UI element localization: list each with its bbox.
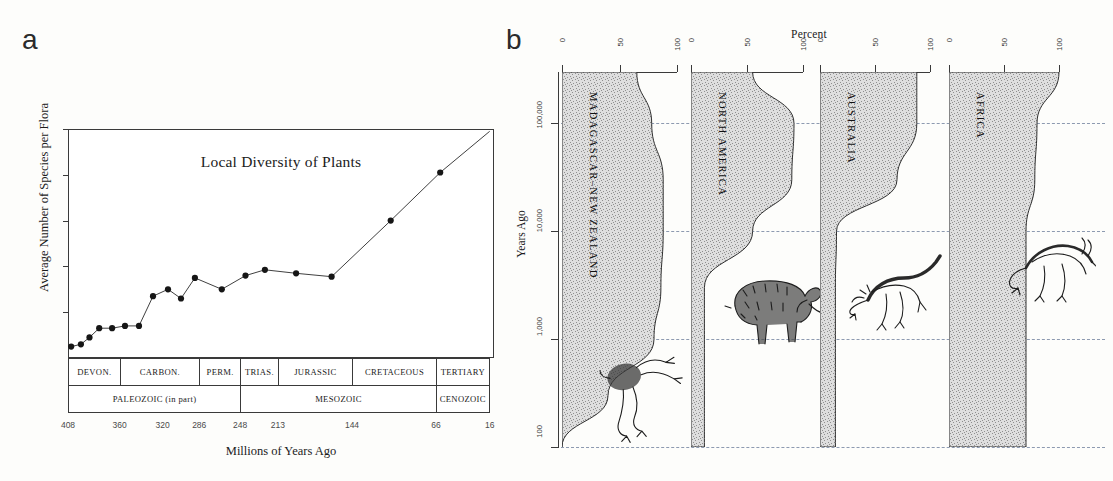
panel-b-x-tick-label: 0 [816, 38, 825, 42]
panel-b-y-tickmark [551, 339, 559, 340]
panel-b-x-tick-label: 50 [616, 38, 625, 46]
panel-b-x-tickmark [875, 65, 876, 72]
panel-b-x-tickmark [1059, 65, 1060, 72]
panel-b-x-tickmark [677, 65, 678, 72]
panel-a-x-axis-label: Millions of Years Ago [68, 444, 494, 459]
panel-a-data-point [178, 295, 184, 301]
panel-b-y-tick-label: 100 [535, 425, 544, 438]
panel-a-period-cell: PERM. [199, 358, 240, 386]
panel-b-x-tick-label: 0 [558, 38, 567, 42]
panel-a-period-cell: JURASSIC [278, 358, 352, 386]
panel-a-data-point [242, 273, 248, 279]
panel-b-x-tick-label: 100 [1055, 38, 1064, 51]
panel-b: b Percent Years Ago 100,00010,0001,00010… [505, 0, 1113, 481]
panel-b-x-tickmark [562, 65, 563, 72]
mammoth-illustration [721, 272, 829, 356]
antelope-illustration [1004, 220, 1096, 312]
panel-a-x-tick-label: 408 [61, 420, 75, 430]
panel-a-series-line [71, 131, 490, 346]
panel-a-period-cell: TERTIARY [436, 358, 490, 386]
panel-a-period-cell: TRIAS. [240, 358, 278, 386]
panel-b-column-label: AFRICA [975, 92, 986, 139]
panel-a-period-cell: CARBON. [120, 358, 200, 386]
panel-a-period-row: DEVON.CARBON.PERM.TRIAS.JURASSICCRETACEO… [68, 358, 494, 386]
panel-b-y-axis-label: Years Ago [515, 174, 527, 294]
panel-b-area-shape [691, 72, 837, 447]
panel-a-data-point [136, 323, 142, 329]
panel-b-column: 050100MADAGASCAR–NEW ZEALAND [562, 72, 711, 447]
panel-b-chart-title: Percent [505, 28, 1113, 40]
panel-b-y-tickmark [551, 123, 559, 124]
panel-a-data-point [86, 334, 92, 340]
panel-a-period-cell: DEVON. [68, 358, 120, 386]
panel-a-letter: a [22, 26, 38, 54]
panel-a-data-point [388, 218, 394, 224]
panel-b-x-tick-label: 0 [687, 38, 696, 42]
panel-b-y-tick-label: 100,000 [535, 101, 544, 128]
panel-b-x-tick-label: 50 [871, 38, 880, 46]
panel-a-x-tick-label: 320 [156, 420, 170, 430]
panel-b-x-tickmark [691, 65, 692, 72]
panel-a-data-point [192, 275, 198, 281]
panel-b-x-tickmark [949, 65, 950, 72]
panel-a-x-tick-label: 144 [345, 420, 359, 430]
panel-a: a Local Diversity of Plants Average Numb… [0, 0, 505, 481]
panel-b-y-tick-label: 10,000 [535, 209, 544, 232]
marsupial-illustration [848, 242, 944, 342]
panel-b-x-tick-label: 100 [799, 38, 808, 51]
panel-b-y-tick-label: 1,000 [535, 317, 544, 336]
panel-b-x-tickmark [747, 65, 748, 72]
panel-a-data-point [262, 267, 268, 273]
panel-a-x-tick-label: 286 [192, 420, 206, 430]
panel-a-era-row: PALEOZOIC (in part)MESOZOICCENOZOIC [68, 386, 494, 413]
panel-b-column-label: MADAGASCAR–NEW ZEALAND [588, 92, 599, 279]
panel-b-x-tickmark [620, 65, 621, 72]
panel-b-x-tick-label: 100 [673, 38, 682, 51]
marsupial-illustration [848, 242, 944, 338]
panel-a-data-point [96, 325, 102, 331]
panel-b-column: 050100AFRICA [949, 72, 1093, 447]
panel-a-y-axis-label: Average Number of Species per Flora [37, 68, 52, 328]
panel-a-era-cell: PALEOZOIC (in part) [68, 386, 240, 413]
panel-a-period-cell: CRETACEOUS [352, 358, 436, 386]
panel-a-x-tick-label: 360 [113, 420, 127, 430]
antelope-illustration [1004, 220, 1096, 308]
mammoth-illustration [721, 272, 829, 352]
panel-a-era-cell: CENOZOIC [436, 386, 490, 413]
panel-a-data-point [293, 270, 299, 276]
panel-a-timescale-table: DEVON.CARBON.PERM.TRIAS.JURASSICCRETACEO… [68, 358, 494, 413]
panel-b-column: 050100AUSTRALIA [820, 72, 964, 447]
panel-a-x-tick-label: 16 [485, 420, 494, 430]
figure-root: a Local Diversity of Plants Average Numb… [0, 0, 1113, 481]
panel-a-x-tick-label: 213 [271, 420, 285, 430]
panel-a-data-point [109, 325, 115, 331]
panel-b-x-tickmark [803, 65, 804, 72]
panel-a-data-series [68, 129, 494, 358]
panel-b-column-label: NORTH AMERICA [717, 92, 728, 196]
panel-b-y-tickmark [551, 447, 559, 448]
panel-a-data-point [122, 323, 128, 329]
panel-a-x-tick-label: 248 [233, 420, 247, 430]
panel-b-x-tick-label: 50 [743, 38, 752, 46]
panel-a-data-point [329, 274, 335, 280]
panel-b-y-axis-line [558, 72, 559, 447]
panel-a-era-cell: MESOZOIC [240, 386, 436, 413]
panel-b-x-tickmark [820, 65, 821, 72]
panel-b-x-tickmark [1004, 65, 1005, 72]
panel-a-data-point [68, 344, 74, 350]
panel-b-column-label: AUSTRALIA [846, 92, 857, 164]
panel-b-x-tick-label: 0 [945, 38, 954, 42]
panel-a-data-point [150, 293, 156, 299]
panel-a-data-point [78, 341, 84, 347]
panel-a-data-point [437, 169, 443, 175]
panel-a-data-point [165, 286, 171, 292]
panel-b-x-tick-label: 50 [1000, 38, 1009, 46]
panel-b-y-tickmark [551, 231, 559, 232]
panel-a-x-tick-label: 66 [431, 420, 440, 430]
panel-b-column: 050100NORTH AMERICA [691, 72, 837, 447]
panel-a-data-point [219, 286, 225, 292]
panel-b-x-tickmark [930, 65, 931, 72]
panel-b-x-tick-label: 100 [926, 38, 935, 51]
